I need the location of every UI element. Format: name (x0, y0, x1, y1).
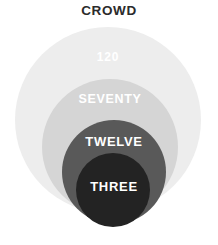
nested-circles-graphic (0, 0, 218, 245)
ring-circle-inner (76, 153, 150, 227)
crowd-nested-circles-diagram: CROWD 120 SEVENTY TWELVE THREE (0, 0, 218, 245)
